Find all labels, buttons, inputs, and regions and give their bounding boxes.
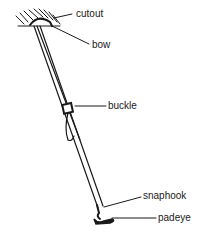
label-buckle: buckle xyxy=(108,101,137,111)
bow-leader xyxy=(52,26,89,44)
buckle-shape xyxy=(62,103,73,114)
label-bow: bow xyxy=(92,40,110,50)
strap-body xyxy=(34,26,103,208)
cutout-hatch xyxy=(16,9,60,26)
label-cutout: cutout xyxy=(76,9,103,19)
snaphook-leader xyxy=(104,197,141,207)
label-snaphook: snaphook xyxy=(143,191,186,201)
cutout-leader xyxy=(54,14,72,18)
padeye-shape xyxy=(94,219,114,224)
strap-diagram xyxy=(0,0,214,247)
label-padeye: padeye xyxy=(158,213,191,223)
snaphook-shape xyxy=(97,205,100,219)
